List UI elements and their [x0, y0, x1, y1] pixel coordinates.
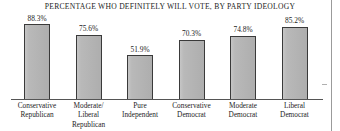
- category-label-line: Independent: [114, 110, 166, 119]
- category-label-line: Democrat: [269, 110, 321, 119]
- category-label-line: Liberal: [63, 110, 115, 119]
- category-label-line: Moderate: [217, 101, 269, 110]
- category-label: ConservativeRepublican: [11, 101, 63, 120]
- bar: [179, 40, 205, 100]
- category-label: PureIndependent: [114, 101, 166, 120]
- bar-value-label: 74.8%: [216, 25, 270, 34]
- bar-value-label: 85.2%: [268, 16, 322, 25]
- bar-group: 51.9%: [127, 14, 153, 100]
- category-label: ConservativeDemocrat: [166, 101, 218, 120]
- bar-group: 70.3%: [179, 14, 205, 100]
- bar-value-label: 75.6%: [62, 24, 116, 33]
- category-label-line: Moderate/: [63, 101, 115, 110]
- bar-group: 85.2%: [282, 14, 308, 100]
- category-label-line: Pure: [114, 101, 166, 110]
- bar-value-label: 88.3%: [10, 14, 64, 23]
- page-column-rule: [331, 0, 332, 131]
- x-axis-category-labels: ConservativeRepublicanModerate/LiberalRe…: [0, 101, 340, 131]
- bar: [76, 35, 102, 100]
- plot-area: 88.3%75.6%51.9%70.3%74.8%85.2%: [0, 14, 340, 100]
- bar: [282, 27, 308, 100]
- bar-group: 75.6%: [76, 14, 102, 100]
- bar: [24, 24, 50, 100]
- category-label-line: Democrat: [166, 110, 218, 119]
- category-label-line: Conservative: [166, 101, 218, 110]
- category-label: ModerateDemocrat: [217, 101, 269, 120]
- category-label: LiberalDemocrat: [269, 101, 321, 120]
- category-label-line: Republican: [11, 110, 63, 119]
- bar-value-label: 51.9%: [113, 45, 167, 54]
- bar-group: 74.8%: [230, 14, 256, 100]
- category-label-line: Liberal: [269, 101, 321, 110]
- category-label: Moderate/LiberalRepublican: [63, 101, 115, 129]
- bar-group: 88.3%: [24, 14, 50, 100]
- category-label-line: Conservative: [11, 101, 63, 110]
- bar-chart-figure: PERCENTAGE WHO DEFINITELY WILL VOTE, BY …: [0, 0, 340, 131]
- x-axis-line: [11, 99, 323, 100]
- chart-title: PERCENTAGE WHO DEFINITELY WILL VOTE, BY …: [0, 2, 340, 11]
- category-label-line: Republican: [63, 120, 115, 129]
- page-margin-tick: [322, 84, 327, 85]
- bar: [127, 55, 153, 100]
- bar-value-label: 70.3%: [165, 29, 219, 38]
- category-label-line: Democrat: [217, 110, 269, 119]
- bar: [230, 36, 256, 100]
